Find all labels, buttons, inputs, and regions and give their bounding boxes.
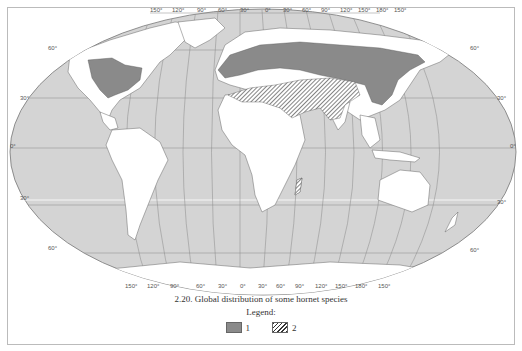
svg-text:150°: 150° xyxy=(378,283,391,289)
svg-text:60°: 60° xyxy=(276,283,286,289)
svg-text:30°: 30° xyxy=(258,283,268,289)
svg-text:150°: 150° xyxy=(358,7,371,13)
svg-text:60°: 60° xyxy=(470,247,480,253)
svg-text:0°: 0° xyxy=(265,7,271,13)
legend-swatch-solid xyxy=(226,322,242,333)
svg-text:60°: 60° xyxy=(218,7,228,13)
svg-text:0°: 0° xyxy=(240,283,246,289)
svg-text:120°: 120° xyxy=(315,283,328,289)
svg-text:150°: 150° xyxy=(335,283,348,289)
svg-text:30°: 30° xyxy=(283,7,293,13)
svg-text:30°: 30° xyxy=(20,95,30,101)
svg-text:0°: 0° xyxy=(510,143,516,149)
svg-text:120°: 120° xyxy=(340,7,353,13)
svg-text:30°: 30° xyxy=(20,195,30,201)
svg-text:30°: 30° xyxy=(497,199,507,205)
svg-text:150°: 150° xyxy=(125,283,138,289)
svg-text:90°: 90° xyxy=(321,7,331,13)
svg-text:60°: 60° xyxy=(196,283,206,289)
legend-label: 2 xyxy=(292,323,297,333)
svg-text:150°: 150° xyxy=(394,7,407,13)
svg-text:180°: 180° xyxy=(376,7,389,13)
svg-text:0°: 0° xyxy=(10,143,16,149)
legend-item-2: 2 xyxy=(272,322,297,333)
svg-text:60°: 60° xyxy=(470,45,480,51)
svg-text:90°: 90° xyxy=(170,283,180,289)
svg-text:90°: 90° xyxy=(197,7,207,13)
svg-text:180°: 180° xyxy=(355,283,368,289)
legend-item-1: 1 xyxy=(226,322,251,333)
svg-text:120°: 120° xyxy=(147,283,160,289)
legend-label: 1 xyxy=(246,323,251,333)
antarctica xyxy=(100,262,430,295)
world-map: 150° 120° 90° 60° 30° 0° 30° 60° 90° 120… xyxy=(0,0,522,300)
figure-caption: 2.20. Global distribution of some hornet… xyxy=(0,294,522,304)
legend-swatch-hatch xyxy=(272,322,288,333)
svg-text:30°: 30° xyxy=(240,7,250,13)
svg-text:150°: 150° xyxy=(150,7,163,13)
svg-text:60°: 60° xyxy=(302,7,312,13)
svg-text:120°: 120° xyxy=(172,7,185,13)
svg-text:30°: 30° xyxy=(497,95,507,101)
legend: 1 2 xyxy=(0,322,522,333)
legend-title: Legend: xyxy=(0,307,522,317)
svg-text:60°: 60° xyxy=(48,245,58,251)
svg-text:60°: 60° xyxy=(48,45,58,51)
svg-text:30°: 30° xyxy=(218,283,228,289)
svg-text:90°: 90° xyxy=(295,283,305,289)
